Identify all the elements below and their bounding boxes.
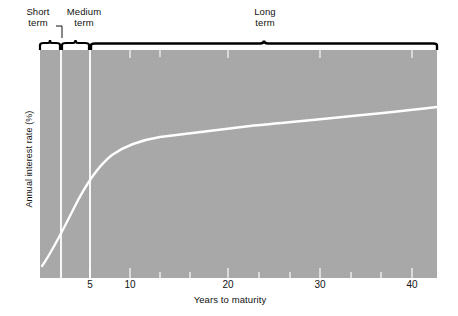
short-term-bracket-label: Short term [16, 6, 60, 28]
y-axis-title: Annual interest rate (%) [24, 89, 34, 229]
x-tick-label-40: 40 [400, 279, 424, 290]
medium-term-bracket [62, 40, 89, 50]
medium-term-bracket-label: Medium term [58, 6, 110, 28]
long-term-bracket [91, 41, 437, 51]
x-tick-label-20: 20 [216, 279, 240, 290]
chart-canvas [0, 0, 458, 316]
yield-curve-figure: Short term Medium term Long term Annual … [0, 0, 458, 316]
long-term-bracket-label: Long term [230, 6, 300, 28]
x-tick-label-30: 30 [308, 279, 332, 290]
x-tick-label-10: 10 [118, 279, 142, 290]
segment-brackets [40, 40, 437, 50]
x-axis-title: Years to maturity [140, 294, 320, 305]
x-tick-label-5: 5 [78, 279, 102, 290]
short-term-bracket [40, 40, 60, 50]
plot-grain-overlay [40, 50, 437, 278]
